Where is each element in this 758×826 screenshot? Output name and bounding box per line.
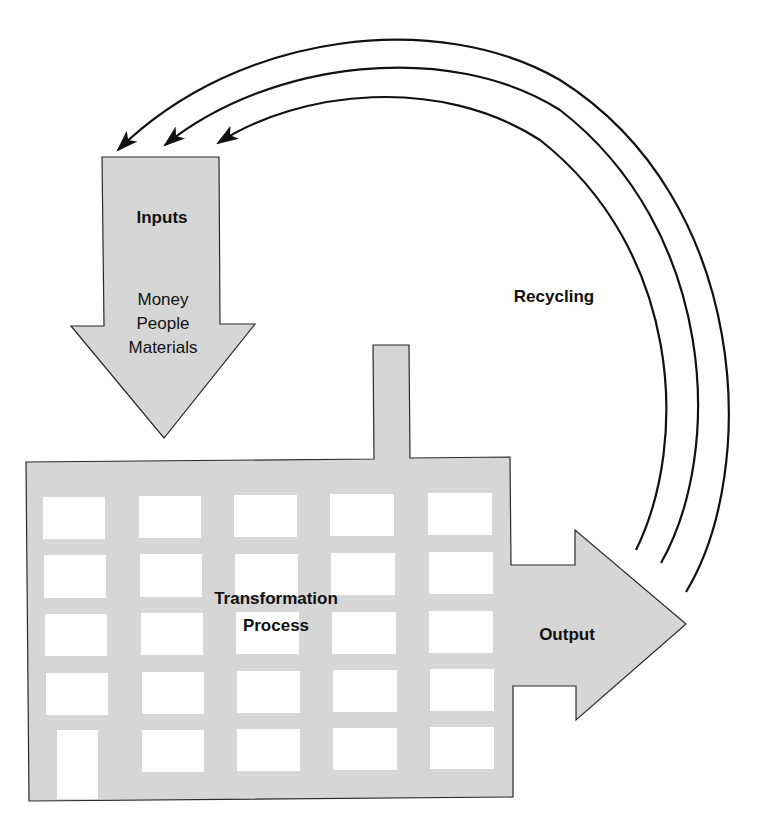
output-label: Output: [539, 625, 595, 644]
factory-door: [57, 730, 98, 799]
inputs-item-money: Money: [137, 290, 189, 309]
process-label-line1: Transformation: [214, 589, 338, 608]
input-output-diagram: Inputs Money People Materials Recycling …: [0, 0, 758, 826]
inputs-item-people: People: [137, 314, 190, 333]
recycling-label: Recycling: [514, 287, 594, 306]
inputs-item-materials: Materials: [129, 338, 198, 357]
inputs-title: Inputs: [137, 208, 188, 227]
process-label-line2: Process: [243, 616, 309, 635]
